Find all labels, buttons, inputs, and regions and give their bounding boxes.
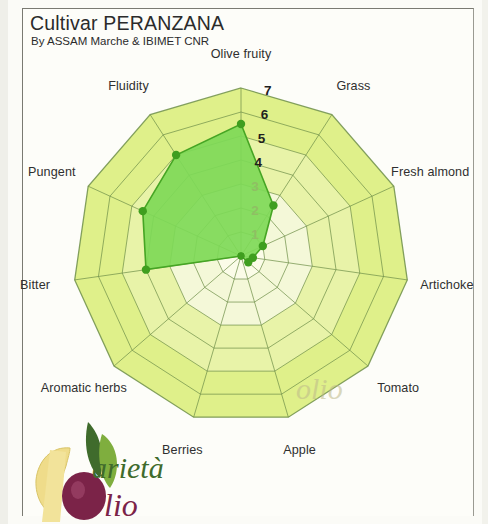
radial-tick-4: 4 <box>254 155 262 170</box>
axis-label-fresh-almond: Fresh almond <box>391 165 469 179</box>
axis-label-grass: Grass <box>336 79 370 93</box>
radial-tick-7: 7 <box>264 83 272 98</box>
axis-label-artichoke: Artichoke <box>420 278 473 292</box>
radial-tick-5: 5 <box>258 131 266 146</box>
axis-label-tomato: Tomato <box>377 381 419 395</box>
page-background: Cultivar PERANZANA By ASSAM Marche & IBI… <box>0 0 488 524</box>
axis-label-olive-fruity: Olive fruity <box>211 47 272 61</box>
radial-tick-1: 1 <box>251 227 259 242</box>
radial-tick-6: 6 <box>261 107 269 122</box>
axis-label-aromatic-herbs: Aromatic herbs <box>41 381 127 395</box>
logo-word-varieta: arietà <box>92 451 164 484</box>
axis-label-pungent: Pungent <box>28 165 76 179</box>
radial-tick-3: 3 <box>251 179 259 194</box>
axis-label-fluidity: Fluidity <box>108 79 149 93</box>
radial-tick-2: 2 <box>251 203 259 218</box>
varieta-olio-logo: arietà lio <box>26 404 206 522</box>
logo-olive-highlight <box>71 481 85 499</box>
axis-label-apple: Apple <box>283 443 316 457</box>
watermark-text: olio <box>296 372 343 406</box>
logo-word-olio: lio <box>104 487 138 522</box>
axis-label-bitter: Bitter <box>20 278 50 292</box>
